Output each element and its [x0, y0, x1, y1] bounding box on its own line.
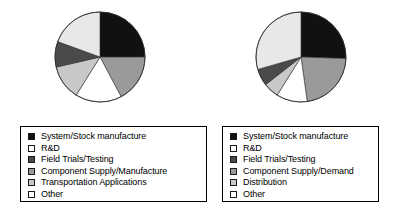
right-pie-wrapper	[201, 10, 401, 115]
legend-item-label: Other	[243, 190, 265, 199]
legend-swatch-icon	[230, 145, 237, 152]
legend-swatch-icon	[28, 156, 35, 163]
legend-item-label: Component Supply/Manufacture	[41, 167, 167, 176]
legend-item: Field Trials/Testing	[223, 154, 378, 166]
right-legend-list: System/Stock manufactureR&DField Trials/…	[223, 127, 378, 200]
legend-swatch-icon	[230, 191, 237, 198]
right-legend: System/Stock manufactureR&DField Trials/…	[222, 126, 379, 202]
legend-item: Other	[21, 189, 206, 201]
legend-item: System/Stock manufacture	[21, 131, 206, 143]
legend-item: Component Supply/Demand	[223, 166, 378, 178]
legend-swatch-icon	[28, 168, 35, 175]
legend-swatch-icon	[28, 133, 35, 140]
legend-item-label: System/Stock manufacture	[243, 132, 348, 141]
pie-slice	[301, 57, 346, 102]
left-pie-wrapper	[0, 10, 200, 115]
left-legend-list: System/Stock manufactureR&DField Trials/…	[21, 127, 206, 200]
legend-item: System/Stock manufacture	[223, 131, 378, 143]
legend-swatch-icon	[230, 156, 237, 163]
legend-item: R&D	[21, 143, 206, 155]
legend-item-label: Transportation Applications	[41, 178, 147, 187]
legend-item: Component Supply/Manufacture	[21, 166, 206, 178]
pie-chart-figure: System/Stock manufactureR&DField Trials/…	[0, 0, 401, 220]
legend-item-label: System/Stock manufacture	[41, 132, 146, 141]
right-chart-panel: System/Stock manufactureR&DField Trials/…	[201, 0, 401, 220]
right-pie-chart	[251, 10, 351, 105]
legend-item: Field Trials/Testing	[21, 154, 206, 166]
legend-item: Distribution	[223, 177, 378, 189]
legend-swatch-icon	[28, 145, 35, 152]
left-legend: System/Stock manufactureR&DField Trials/…	[20, 126, 207, 202]
legend-item-label: Field Trials/Testing	[41, 155, 114, 164]
legend-swatch-icon	[230, 133, 237, 140]
legend-item-label: Distribution	[243, 178, 287, 187]
legend-swatch-icon	[28, 191, 35, 198]
legend-item-label: Field Trials/Testing	[243, 155, 316, 164]
legend-swatch-icon	[28, 179, 35, 186]
legend-swatch-icon	[230, 168, 237, 175]
left-pie-chart	[50, 10, 150, 105]
pie-slice	[301, 12, 346, 59]
legend-item-label: Other	[41, 190, 63, 199]
legend-item-label: Component Supply/Demand	[243, 167, 354, 176]
legend-item: Other	[223, 189, 378, 201]
legend-item: R&D	[223, 143, 378, 155]
legend-item: Transportation Applications	[21, 177, 206, 189]
pie-slice	[100, 12, 145, 57]
left-chart-panel: System/Stock manufactureR&DField Trials/…	[0, 0, 200, 220]
legend-swatch-icon	[230, 179, 237, 186]
legend-item-label: R&D	[41, 144, 60, 153]
legend-item-label: R&D	[243, 144, 262, 153]
